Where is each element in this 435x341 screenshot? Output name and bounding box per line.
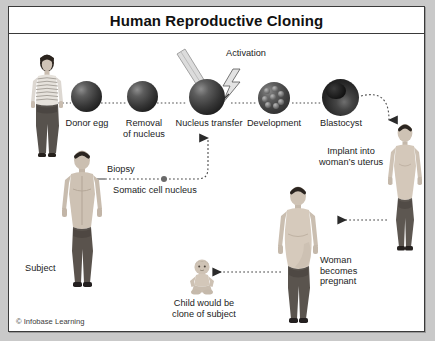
stage-development: [258, 82, 290, 114]
label-woman-becomes-pregnant: Woman becomes pregnant: [320, 255, 382, 287]
label-development: Development: [242, 118, 306, 129]
label-removal-of-nucleus: Removal of nucleus: [115, 118, 173, 139]
label-activation: Activation: [214, 48, 278, 59]
label-somatic-cell-nucleus: Somatic cell nucleus: [113, 185, 233, 196]
copyright-credit: © Infobase Learning: [16, 317, 85, 326]
implant-arrow: [361, 95, 389, 120]
stage-blastocyst: [322, 79, 359, 116]
label-child-clone-of-subject: Child would be clone of subject: [152, 298, 256, 319]
recipient-woman-figure: [382, 122, 428, 252]
somatic-cell-nucleus-dot: [161, 176, 167, 182]
label-blastocyst: Blastocyst: [311, 118, 371, 129]
figure-title-bar: Human Reproductive Cloning: [9, 7, 424, 34]
stage-donor-egg: [71, 81, 102, 112]
stage-removal-of-nucleus: [127, 81, 158, 112]
egg-donor-woman-figure: [21, 54, 73, 158]
morula-cells: [258, 82, 290, 114]
label-subject: Subject: [25, 263, 75, 274]
inner-cell-mass: [326, 83, 345, 99]
diagram-canvas: Donor egg Removal of nucleus Nucleus tra…: [9, 34, 424, 332]
label-implant-into-uterus: Implant into woman’s uterus: [314, 146, 388, 167]
label-biopsy: Biopsy: [107, 164, 151, 175]
label-donor-egg: Donor egg: [57, 118, 117, 129]
pregnant-woman-figure: [271, 184, 325, 324]
page-title: Human Reproductive Cloning: [110, 12, 323, 29]
stage-nucleus-transfer: [189, 79, 225, 115]
child-baby-figure: [185, 258, 219, 296]
label-nucleus-transfer: Nucleus transfer: [171, 118, 247, 129]
figure-panel: Human Reproductive Cloning: [8, 6, 425, 332]
